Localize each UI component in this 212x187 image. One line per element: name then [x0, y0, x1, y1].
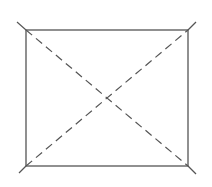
- diagram-canvas: [0, 0, 212, 187]
